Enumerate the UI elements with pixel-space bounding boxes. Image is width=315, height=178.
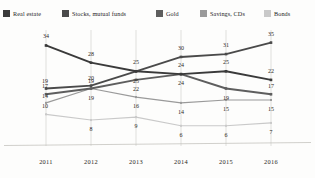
data-label: 19 <box>88 78 94 84</box>
data-point-marker <box>45 113 47 115</box>
data-label: 24 <box>178 80 184 86</box>
legend-item-label: Stocks, mutual funds <box>72 10 126 17</box>
data-label: 6 <box>179 132 182 138</box>
square-swatch-icon <box>62 10 69 17</box>
legend-item-bonds[interactable]: Bonds <box>264 10 290 17</box>
data-point-marker <box>90 84 93 87</box>
axis-baseline <box>4 143 311 146</box>
data-point-marker <box>90 87 93 90</box>
data-label: 28 <box>88 51 94 57</box>
plot-area: 3428252425221920253031351719222419171419… <box>0 26 315 150</box>
data-label: 10 <box>42 103 48 109</box>
x-tick-2014: 2014 <box>174 158 188 165</box>
x-tick-2016: 2016 <box>264 158 278 165</box>
data-point-marker <box>180 73 183 76</box>
data-label: 22 <box>133 86 139 92</box>
data-label: 31 <box>223 42 229 48</box>
x-axis: 201120122013201420152016 <box>0 152 315 172</box>
data-label: 17 <box>268 83 274 89</box>
data-point-marker <box>225 53 228 56</box>
legend-item-real-estate[interactable]: Real estate <box>3 10 41 17</box>
data-label: 14 <box>42 93 48 99</box>
square-swatch-icon <box>264 10 271 17</box>
data-label: 15 <box>268 106 274 112</box>
legend-item-stocks-mutual-funds[interactable]: Stocks, mutual funds <box>62 10 126 17</box>
data-point-marker <box>90 119 92 121</box>
series-bonds <box>45 113 272 126</box>
data-point-marker <box>270 99 272 101</box>
data-label: 7 <box>269 129 272 135</box>
data-label: 25 <box>133 59 139 65</box>
data-label: 34 <box>43 33 49 39</box>
data-point-marker <box>180 56 183 59</box>
data-label: 25 <box>133 78 139 84</box>
data-label: 30 <box>178 45 184 51</box>
data-label: 9 <box>134 123 137 129</box>
series-line <box>46 74 271 94</box>
data-label: 6 <box>224 132 227 138</box>
x-tick-2011: 2011 <box>39 158 53 165</box>
square-swatch-icon <box>3 10 10 17</box>
x-tick-2012: 2012 <box>84 158 98 165</box>
data-label: 25 <box>223 59 229 65</box>
x-tick-2013: 2013 <box>129 158 143 165</box>
data-point-marker <box>270 79 273 82</box>
series-real-estate <box>45 44 273 81</box>
data-point-marker <box>90 61 93 64</box>
data-point-marker <box>135 116 137 118</box>
data-label: 17 <box>42 83 48 89</box>
data-label: 14 <box>178 109 184 115</box>
legend-item-label: Bonds <box>274 10 290 17</box>
data-point-marker <box>135 96 137 98</box>
legend-item-savings-cds[interactable]: Savings, CDs <box>200 10 245 17</box>
series-line <box>46 43 271 89</box>
legend-item-label: Gold <box>166 10 179 17</box>
data-point-marker <box>270 122 272 124</box>
data-point-marker <box>225 87 228 90</box>
data-label: 22 <box>268 68 274 74</box>
data-point-marker <box>180 125 182 127</box>
square-swatch-icon <box>200 10 207 17</box>
legend-item-label: Savings, CDs <box>210 10 245 17</box>
series-stocks-mutual-funds <box>45 41 273 89</box>
data-label: 19 <box>88 95 94 101</box>
data-point-marker <box>225 70 228 73</box>
data-label: 16 <box>133 103 139 109</box>
line-chart: Real estateStocks, mutual fundsGoldSavin… <box>0 0 315 178</box>
x-tick-2015: 2015 <box>219 158 233 165</box>
square-swatch-icon <box>156 10 163 17</box>
data-label: 24 <box>178 62 184 68</box>
data-label: 19 <box>223 95 229 101</box>
legend-item-label: Real estate <box>13 10 41 17</box>
legend-item-gold[interactable]: Gold <box>156 10 179 17</box>
data-point-marker <box>135 70 138 73</box>
data-label: 35 <box>268 31 274 37</box>
data-point-marker <box>270 41 273 44</box>
data-point-marker <box>270 93 273 96</box>
series-line <box>46 114 271 125</box>
data-label: 8 <box>89 126 92 132</box>
data-point-marker <box>45 44 48 47</box>
data-label: 15 <box>223 106 229 112</box>
data-point-marker <box>180 102 182 104</box>
data-point-marker <box>225 125 227 127</box>
chart-legend: Real estateStocks, mutual fundsGoldSavin… <box>0 4 315 22</box>
